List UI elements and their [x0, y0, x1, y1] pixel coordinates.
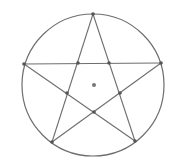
inner-vertex-left [65, 91, 69, 95]
outer-vertex-bottom-right [133, 139, 137, 143]
inner-vertex-right [118, 91, 122, 95]
inner-vertices [65, 61, 122, 114]
star-edge [52, 14, 93, 142]
pentagram-diagram [0, 0, 182, 161]
outer-vertex-left [22, 62, 26, 66]
outer-vertex-bottom-left [50, 140, 54, 144]
outer-vertex-top [91, 12, 95, 16]
center-point [92, 83, 96, 87]
star-edge [24, 63, 161, 64]
star-edge [24, 64, 135, 141]
star-edge [52, 63, 161, 142]
outer-vertex-right [159, 61, 163, 65]
inner-vertex-upper-left [76, 61, 80, 65]
inner-vertex-upper-right [107, 61, 111, 65]
inner-vertex-bottom [92, 110, 96, 114]
star-edge [93, 14, 135, 141]
